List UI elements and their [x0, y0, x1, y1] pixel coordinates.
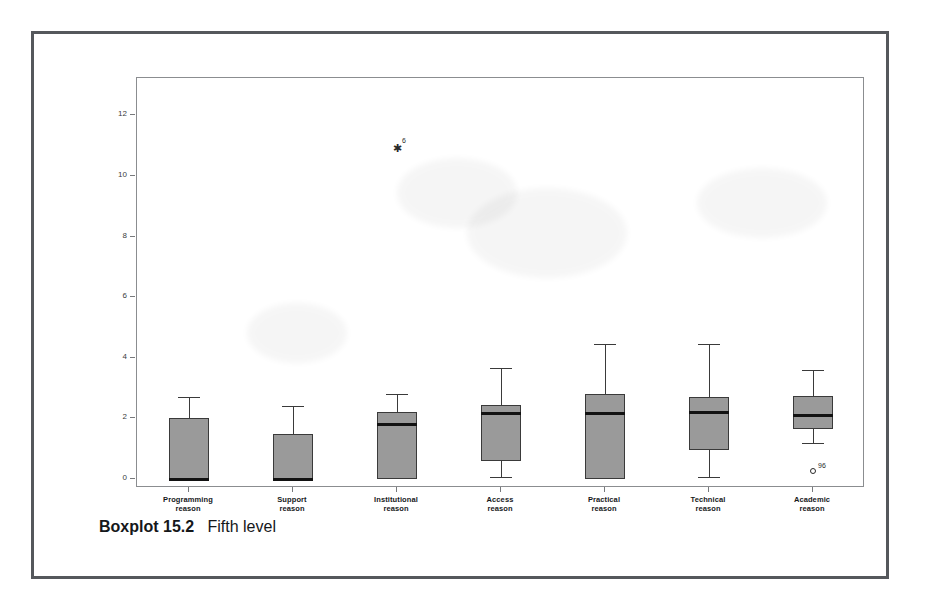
- x-tick-mark: [500, 487, 501, 492]
- whisker-cap-upper: [178, 397, 200, 398]
- y-tick-mark: [130, 114, 135, 115]
- whisker-upper: [605, 344, 606, 394]
- whisker-upper: [397, 394, 398, 412]
- x-category-label-line: reason: [658, 504, 758, 513]
- x-tick-mark: [812, 487, 813, 492]
- whisker-upper: [501, 368, 502, 404]
- x-tick-mark: [396, 487, 397, 492]
- scan-smudge: [397, 158, 517, 228]
- x-category-label-line: Academic: [762, 495, 862, 504]
- caption-title: Fifth level: [207, 518, 275, 535]
- x-category-label-line: Institutional: [346, 495, 446, 504]
- y-tick-mark: [130, 296, 135, 297]
- median-line: [273, 478, 313, 481]
- whisker-upper: [709, 344, 710, 397]
- whisker-lower: [813, 429, 814, 443]
- y-tick-mark: [130, 357, 135, 358]
- y-tick-mark: [130, 417, 135, 418]
- box-iqr: [169, 418, 209, 479]
- x-category-label-line: Access: [450, 495, 550, 504]
- outlier-circle-marker: [810, 468, 816, 474]
- y-tick-label: 12: [103, 110, 127, 118]
- whisker-cap-upper: [386, 394, 408, 395]
- scan-smudge: [697, 168, 827, 238]
- whisker-cap-lower: [490, 477, 512, 478]
- median-line: [169, 478, 209, 481]
- whisker-upper: [293, 406, 294, 433]
- x-category-label-line: Practical: [554, 495, 654, 504]
- x-category-label-line: reason: [346, 504, 446, 513]
- x-category-label: Academicreason: [762, 495, 862, 513]
- y-tick-mark: [130, 236, 135, 237]
- figure-caption: Boxplot 15.2 Fifth level: [99, 518, 276, 536]
- whisker-upper: [189, 397, 190, 418]
- x-category-label-line: reason: [762, 504, 862, 513]
- whisker-lower: [709, 450, 710, 477]
- x-category-label: Practicalreason: [554, 495, 654, 513]
- scan-smudge: [467, 188, 627, 278]
- y-tick-label: 0: [103, 474, 127, 482]
- outlier-star-marker: ✱: [393, 145, 402, 151]
- box-iqr: [689, 397, 729, 450]
- median-line: [377, 423, 417, 426]
- x-tick-mark: [292, 487, 293, 492]
- x-category-label-line: reason: [242, 504, 342, 513]
- x-tick-mark: [188, 487, 189, 492]
- median-line: [481, 412, 521, 415]
- whisker-cap-upper: [594, 344, 616, 345]
- x-category-label: Accessreason: [450, 495, 550, 513]
- y-tick-mark: [130, 175, 135, 176]
- y-tick-label: 6: [103, 292, 127, 300]
- y-tick-label: 10: [103, 171, 127, 179]
- x-category-label-line: Programming: [138, 495, 238, 504]
- whisker-cap-upper: [282, 406, 304, 407]
- y-tick-label: 8: [103, 232, 127, 240]
- x-category-label: Programmingreason: [138, 495, 238, 513]
- x-category-label-line: reason: [554, 504, 654, 513]
- whisker-cap-lower: [698, 477, 720, 478]
- whisker-cap-lower: [802, 443, 824, 444]
- box-iqr: [793, 396, 833, 429]
- whisker-upper: [813, 370, 814, 396]
- outlier-label: 96: [818, 462, 826, 469]
- median-line: [793, 414, 833, 417]
- plot-frame: ✱696: [136, 77, 864, 487]
- median-line: [585, 412, 625, 415]
- whisker-cap-upper: [802, 370, 824, 371]
- x-tick-mark: [604, 487, 605, 492]
- x-category-label-line: reason: [450, 504, 550, 513]
- scan-smudge: [247, 303, 347, 363]
- figure-card: 024681012 ✱696 ProgrammingreasonSupportr…: [31, 31, 889, 579]
- whisker-lower: [501, 461, 502, 478]
- y-tick-mark: [130, 478, 135, 479]
- x-category-label: Supportreason: [242, 495, 342, 513]
- whisker-cap-upper: [490, 368, 512, 369]
- median-line: [689, 411, 729, 414]
- x-category-label-line: Technical: [658, 495, 758, 504]
- outlier-label: 6: [402, 137, 406, 144]
- x-category-label: Technicalreason: [658, 495, 758, 513]
- x-category-label-line: reason: [138, 504, 238, 513]
- box-iqr: [585, 394, 625, 479]
- whisker-cap-upper: [698, 344, 720, 345]
- x-tick-mark: [708, 487, 709, 492]
- y-tick-label: 4: [103, 353, 127, 361]
- chart-area: 024681012 ✱696 ProgrammingreasonSupportr…: [103, 77, 864, 500]
- x-category-label: Institutionalreason: [346, 495, 446, 513]
- x-category-label-line: Support: [242, 495, 342, 504]
- caption-label: Boxplot 15.2: [99, 518, 194, 535]
- y-tick-label: 2: [103, 413, 127, 421]
- box-iqr: [273, 434, 313, 479]
